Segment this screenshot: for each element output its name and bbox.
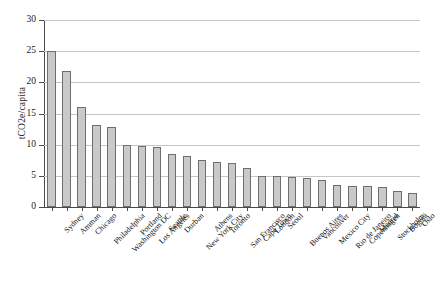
x-axis-tick — [217, 207, 218, 211]
x-axis-tick — [187, 207, 188, 211]
x-axis-tick — [82, 207, 83, 211]
bar — [303, 178, 311, 207]
bar — [348, 186, 356, 207]
gridline — [44, 51, 420, 52]
gridline — [44, 20, 420, 21]
plot-area — [44, 20, 420, 207]
bar — [168, 154, 176, 207]
x-axis-tick — [277, 207, 278, 211]
y-axis-tick-label: 30 — [0, 15, 36, 24]
x-axis-tick — [292, 207, 293, 211]
x-axis-tick — [97, 207, 98, 211]
x-axis-tick — [307, 207, 308, 211]
y-axis-tick-label: 15 — [0, 109, 36, 118]
y-axis-tick-label: 25 — [0, 46, 36, 55]
bar — [47, 51, 55, 207]
x-axis-tick — [247, 207, 248, 211]
y-axis-tick-label: 0 — [0, 202, 36, 211]
bar — [378, 187, 386, 207]
x-axis-tick — [232, 207, 233, 211]
bar — [92, 125, 100, 207]
bar — [138, 146, 146, 207]
bar — [393, 191, 401, 207]
bar — [288, 177, 296, 207]
bar — [62, 71, 70, 207]
y-axis-tick-label: 10 — [0, 140, 36, 149]
x-axis-tick — [322, 207, 323, 211]
bar — [198, 160, 206, 207]
x-axis-tick — [397, 207, 398, 211]
bar — [77, 107, 85, 207]
y-axis-tick-label: 5 — [0, 171, 36, 180]
x-axis-tick — [202, 207, 203, 211]
bar — [363, 186, 371, 207]
bar — [213, 162, 221, 208]
bar — [183, 156, 191, 207]
x-axis-tick — [52, 207, 53, 211]
gridline — [44, 114, 420, 115]
bar — [258, 176, 266, 207]
x-axis-tick — [127, 207, 128, 211]
x-axis-tick — [382, 207, 383, 211]
bar — [273, 176, 281, 207]
bar — [408, 193, 416, 207]
x-axis-tick — [352, 207, 353, 211]
bar — [243, 168, 251, 207]
bar — [333, 185, 341, 207]
bar — [228, 163, 236, 207]
x-axis-tick — [412, 207, 413, 211]
bar — [318, 180, 326, 207]
x-axis-tick — [262, 207, 263, 211]
bar — [107, 127, 115, 207]
x-axis-tick — [172, 207, 173, 211]
x-axis-tick — [367, 207, 368, 211]
x-axis-tick — [142, 207, 143, 211]
bar — [153, 147, 161, 207]
gridline — [44, 82, 420, 83]
y-axis-tick-label: 20 — [0, 77, 36, 86]
x-axis-tick — [67, 207, 68, 211]
bar — [123, 145, 131, 207]
